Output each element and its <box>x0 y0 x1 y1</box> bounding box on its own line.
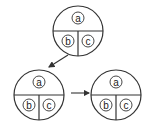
cell-c-label: c <box>47 100 52 111</box>
cell-b-label: b <box>103 100 109 111</box>
cell-c-label: c <box>124 100 129 111</box>
cell-a-label: a <box>75 13 81 24</box>
arrow-top-to-bottom-left <box>49 55 68 67</box>
cell-a-label: a <box>36 77 42 88</box>
node-top: a b c <box>53 6 103 56</box>
cell-b-label: b <box>26 100 32 111</box>
diagram-canvas: a b c a b c a b c <box>0 0 149 130</box>
node-bottom-right: a b c <box>91 70 141 120</box>
cell-c-label: c <box>86 36 91 47</box>
node-bottom-left: a b c <box>14 70 64 120</box>
cell-b-label: b <box>65 36 71 47</box>
cell-a-label: a <box>113 77 119 88</box>
